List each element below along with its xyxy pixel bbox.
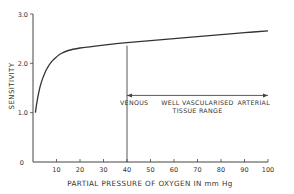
range-label-line2: TISSUE RANGE [172, 107, 223, 114]
y-tick-label: 1.0 [18, 109, 28, 117]
annotations: VENOUSWELL VASCULARISEDTISSUE RANGEARTER… [120, 46, 270, 162]
y-tick-label: 2.0 [18, 60, 28, 68]
x-tick-label: 70 [193, 166, 201, 174]
x-tick-label: 40 [123, 166, 131, 174]
range-label-line1: WELL VASCULARISED [161, 99, 234, 106]
x-tick-label: 60 [170, 166, 178, 174]
sensitivity-chart: 10203040506070809010001.02.03.0 VENOUSWE… [0, 0, 294, 194]
y-tick-label: 0 [20, 159, 24, 167]
x-tick-label: 100 [262, 166, 274, 174]
venous-label: VENOUS [120, 99, 148, 106]
x-axis-label: PARTIAL PRESSURE OF OXYGEN IN mm Hg [67, 179, 232, 188]
x-tick-label: 90 [240, 166, 248, 174]
y-tick-label: 3.0 [18, 11, 28, 19]
x-tick-label: 80 [217, 166, 225, 174]
axes [33, 14, 268, 162]
x-tick-label: 30 [99, 166, 107, 174]
x-tick-label: 50 [146, 166, 154, 174]
arterial-label: ARTERIAL [238, 99, 271, 106]
arrowhead-right-icon [263, 93, 268, 97]
tick-marks: 10203040506070809010001.02.03.0 [18, 11, 275, 175]
y-axis-label: SENSITIVITY [8, 62, 16, 109]
x-tick-label: 10 [52, 166, 60, 174]
x-tick-label: 20 [76, 166, 84, 174]
arrowhead-left-icon [127, 93, 132, 97]
